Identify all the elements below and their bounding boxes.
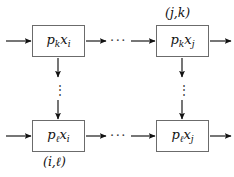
node-label-top-right: pkxj — [171, 33, 195, 49]
node-box-bottom-right[interactable]: pℓxj — [156, 120, 209, 152]
ellipsis-top-row: ··· — [110, 34, 127, 47]
node-label-bottom-right: pℓxj — [171, 128, 193, 144]
node-label-bottom-left: pℓxi — [47, 128, 69, 144]
corner-label-top-right-pair: (j,k) — [165, 7, 190, 20]
diagram-canvas: pkxi pkxj pℓxi pℓxj (j,k) (i,ℓ) ··· ··· … — [0, 0, 234, 177]
ellipsis-right-column: ⋮ — [178, 84, 190, 97]
node-box-top-left[interactable]: pkxi — [32, 25, 85, 57]
node-label-top-left: pkxi — [46, 33, 70, 49]
node-box-top-right[interactable]: pkxj — [156, 25, 209, 57]
corner-label-bottom-left-pair: (i,ℓ) — [43, 156, 66, 169]
ellipsis-left-column: ⋮ — [54, 84, 66, 97]
ellipsis-bottom-row: ··· — [110, 129, 127, 142]
node-box-bottom-left[interactable]: pℓxi — [32, 120, 85, 152]
